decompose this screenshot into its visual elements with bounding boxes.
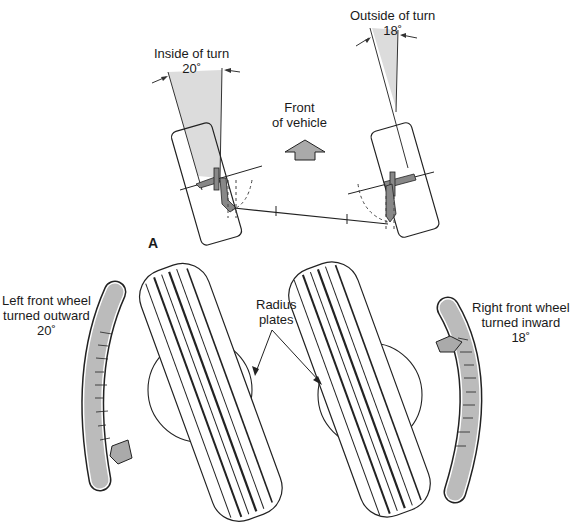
radius-plates-label: Radius plates bbox=[256, 297, 296, 327]
inside-angle-wedge bbox=[168, 70, 222, 178]
front-arrow-icon bbox=[285, 140, 325, 160]
right-wheel-label: Right front wheel turned inward 18˚ bbox=[472, 300, 570, 345]
toe-out-on-turns-diagram: Inside of turn 20˚ Outside of turn 18˚ F… bbox=[0, 0, 578, 528]
left-wheel-label: Left front wheel turned outward 20˚ bbox=[2, 293, 91, 338]
diagram-artwork bbox=[0, 0, 578, 528]
inside-turn-label: Inside of turn 20˚ bbox=[154, 46, 229, 76]
front-of-vehicle-label: Front of vehicle bbox=[272, 100, 327, 130]
outside-turn-label: Outside of turn 18˚ bbox=[350, 8, 435, 38]
left-pointer bbox=[110, 440, 132, 464]
part-a-label: A bbox=[148, 236, 158, 251]
